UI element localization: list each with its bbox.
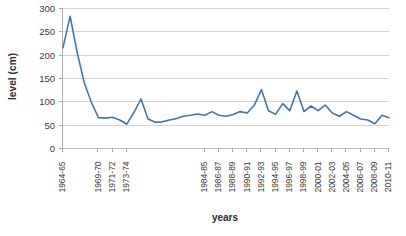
y-axis-title: level (cm) [2, 0, 24, 152]
line-chart: level (cm) 050100150200250300 1964-65196… [0, 0, 406, 236]
y-axis-tick-labels: 050100150200250300 [24, 8, 58, 148]
y-tick-label: 300 [39, 3, 55, 14]
x-tick-label-text: 2010-11 [383, 162, 393, 193]
x-axis-tick-labels: 1964-651969-701971-721973-741984-851986-… [62, 152, 388, 208]
x-tick-label: 1973-74 [98, 152, 154, 208]
y-tick-label: 100 [39, 96, 55, 107]
series-polyline [63, 16, 389, 124]
y-tick-label: 50 [44, 119, 55, 130]
y-tick-label: 250 [39, 26, 55, 37]
series-line-level [63, 8, 389, 148]
x-tick-label-text: 1964-65 [57, 161, 67, 192]
plot-area [62, 8, 389, 148]
y-tick-label: 200 [39, 49, 55, 60]
x-tick-label: 2010-11 [360, 152, 406, 208]
y-axis-title-label: level (cm) [8, 52, 19, 99]
y-tick-label: 150 [39, 73, 55, 84]
x-tick-label-text: 1973-74 [121, 161, 131, 192]
x-axis-title: years [62, 212, 388, 223]
